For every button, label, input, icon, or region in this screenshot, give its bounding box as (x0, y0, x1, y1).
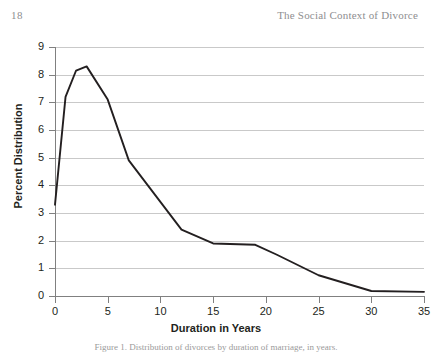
x-axis-title: Duration in Years (0, 322, 432, 334)
page-number: 18 (11, 9, 23, 21)
page-header: 18 The Social Context of Divorce (0, 0, 432, 30)
y-axis-title: Percent Distribution (12, 76, 24, 236)
running-title: The Social Context of Divorce (277, 9, 418, 21)
series-line-svg (0, 30, 432, 349)
figure-chart: 0123456789 05101520253035 Percent Distri… (0, 30, 432, 349)
figure-caption: Figure 1. Distribution of divorces by du… (0, 342, 432, 352)
